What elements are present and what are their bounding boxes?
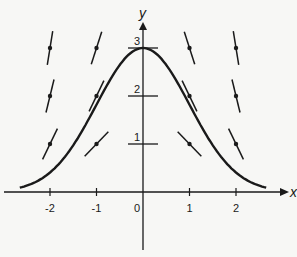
slope-point: [234, 46, 238, 50]
slope-point: [48, 46, 52, 50]
x-tick-label: 1: [186, 202, 192, 214]
slope-point: [187, 94, 191, 98]
x-tick-label: 0: [134, 202, 140, 214]
y-tick-label: 2: [134, 83, 140, 95]
slope-point: [234, 94, 238, 98]
slope-point: [187, 46, 191, 50]
slope-field-diagram: x y -2-1012123: [0, 0, 297, 257]
x-tick-label: -1: [92, 202, 102, 214]
x-axis-label: x: [289, 184, 297, 200]
slope-point: [234, 142, 238, 146]
x-tick-label: 2: [233, 202, 239, 214]
x-tick-label: -2: [45, 202, 55, 214]
slope-point: [94, 46, 98, 50]
x-axis-arrow-icon: [280, 188, 289, 196]
slope-point: [48, 94, 52, 98]
y-axis-label: y: [138, 5, 147, 21]
ticks: -2-1012123: [45, 35, 239, 214]
slope-point: [187, 142, 191, 146]
y-tick-label: 3: [134, 35, 140, 47]
slope-point: [48, 142, 52, 146]
y-axis-arrow-icon: [139, 22, 147, 30]
slope-point: [94, 142, 98, 146]
y-tick-label: 1: [134, 131, 140, 143]
slope-point: [94, 94, 98, 98]
